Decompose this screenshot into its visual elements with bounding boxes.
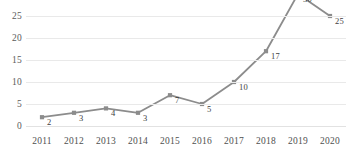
series-line bbox=[26, 0, 346, 126]
x-tick-label: 2017 bbox=[224, 136, 244, 146]
y-tick-label: 15 bbox=[12, 55, 22, 65]
data-label-2015: 7 bbox=[175, 95, 179, 105]
gridline-25 bbox=[26, 16, 346, 17]
plot-area: 23437510173025 bbox=[26, 0, 346, 126]
x-tick-label: 2014 bbox=[128, 136, 148, 146]
y-tick-label: 10 bbox=[12, 77, 22, 87]
gridline-5 bbox=[26, 104, 346, 105]
data-label-2018: 17 bbox=[271, 51, 280, 61]
data-point-marker bbox=[104, 106, 108, 110]
data-label-2012: 3 bbox=[79, 113, 83, 123]
x-axis: 2011201220132014201520162017201820192020 bbox=[26, 132, 346, 154]
series-polyline bbox=[42, 0, 330, 117]
data-point-marker bbox=[136, 111, 140, 115]
line-chart: 051015202530 23437510173025 201120122013… bbox=[0, 0, 353, 157]
y-tick-label: 5 bbox=[17, 99, 22, 109]
x-tick-label: 2015 bbox=[160, 136, 180, 146]
data-point-marker bbox=[72, 111, 76, 115]
y-tick-label: 25 bbox=[12, 11, 22, 21]
data-label-2011: 2 bbox=[47, 117, 51, 127]
gridline-10 bbox=[26, 82, 346, 83]
x-tick-label: 2011 bbox=[32, 136, 51, 146]
data-point-marker bbox=[168, 93, 172, 97]
data-label-2014: 3 bbox=[143, 113, 147, 123]
gridline-15 bbox=[26, 60, 346, 61]
x-tick-label: 2020 bbox=[320, 136, 340, 146]
data-label-2016: 5 bbox=[207, 104, 211, 114]
data-label-2019: 30 bbox=[303, 0, 312, 4]
y-tick-label: 20 bbox=[12, 33, 22, 43]
data-label-2013: 4 bbox=[111, 108, 115, 118]
x-tick-label: 2013 bbox=[96, 136, 116, 146]
x-tick-label: 2018 bbox=[256, 136, 276, 146]
x-tick-label: 2012 bbox=[64, 136, 84, 146]
data-label-2017: 10 bbox=[239, 82, 248, 92]
x-tick-label: 2016 bbox=[192, 136, 212, 146]
y-tick-label: 0 bbox=[17, 121, 22, 131]
data-point-marker bbox=[264, 49, 268, 53]
gridline-20 bbox=[26, 38, 346, 39]
gridline-0 bbox=[26, 126, 346, 127]
data-label-2020: 25 bbox=[335, 16, 344, 26]
y-axis: 051015202530 bbox=[0, 0, 22, 126]
x-tick-label: 2019 bbox=[288, 136, 308, 146]
data-point-marker bbox=[40, 115, 44, 119]
